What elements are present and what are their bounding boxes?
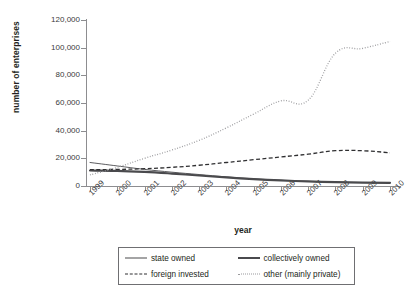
- legend-item[interactable]: other (mainly private): [238, 270, 351, 279]
- y-axis-title: number of enterprises: [11, 7, 21, 127]
- legend: state ownedcollectively ownedforeign inv…: [118, 247, 355, 285]
- y-tick-label: 0: [36, 182, 80, 190]
- legend-item[interactable]: collectively owned: [238, 254, 351, 263]
- legend-item[interactable]: foreign invested: [125, 270, 238, 279]
- series-line-state-owned: [90, 162, 390, 182]
- series-lines: [86, 20, 400, 186]
- legend-label: other (mainly private): [264, 270, 341, 279]
- y-tick-label: 40,000: [36, 127, 80, 135]
- y-tick-label: 100,000: [36, 44, 80, 52]
- y-tick: [81, 186, 86, 187]
- legend-label: collectively owned: [264, 254, 330, 263]
- legend-line-swatch-icon: [238, 270, 260, 278]
- legend-line-swatch-icon: [238, 254, 260, 262]
- legend-label: foreign invested: [151, 270, 209, 279]
- legend-line-swatch-icon: [125, 270, 147, 278]
- legend-label: state owned: [151, 254, 195, 263]
- y-tick-label: 20,000: [36, 154, 80, 162]
- series-line-other-mainly-private-: [90, 41, 390, 174]
- series-line-foreign-invested: [90, 150, 390, 169]
- plot-area: [86, 20, 400, 186]
- series-line-collectively-owned: [90, 171, 390, 183]
- y-tick-label: 80,000: [36, 71, 80, 79]
- y-axis-tick-labels: 120,000100,00080,00060,00040,00020,0000: [30, 0, 80, 200]
- legend-item[interactable]: state owned: [125, 254, 238, 263]
- y-tick-label: 60,000: [36, 99, 80, 107]
- y-tick-label: 120,000: [36, 16, 80, 24]
- x-axis-title: year: [86, 225, 400, 235]
- chart-figure: 120,000100,00080,00060,00040,00020,0000 …: [0, 0, 416, 294]
- legend-line-swatch-icon: [125, 254, 147, 262]
- x-axis-line: [86, 186, 401, 187]
